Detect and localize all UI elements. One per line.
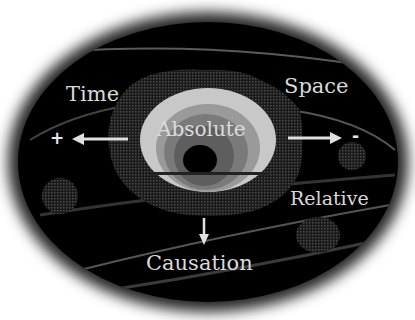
well-core [183, 145, 217, 175]
label-time: Time [66, 84, 119, 105]
label-relative: Relative [290, 189, 369, 208]
plus-sign: + [50, 130, 64, 147]
minus-sign: - [352, 128, 359, 145]
planet-left [42, 178, 78, 214]
label-causation: Causation [146, 253, 253, 274]
diagram-canvas: Time Space Absolute Relative Causation +… [0, 0, 415, 320]
planet-right [338, 142, 366, 170]
well-bar [150, 172, 270, 175]
label-absolute: Absolute [157, 119, 246, 139]
label-space: Space [284, 76, 349, 97]
orbit-line [60, 49, 390, 70]
planet-lower-right [296, 217, 340, 253]
